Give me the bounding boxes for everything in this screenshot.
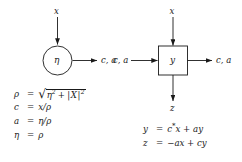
equation-eta: η = ρ (14, 130, 86, 144)
equation-a: a = η/ρ (14, 116, 86, 130)
equation-c-rhs: x/ρ (38, 102, 51, 112)
equation-rho-lhs: ρ (14, 89, 25, 99)
equation-z-lhs: z (143, 138, 154, 148)
equation-eta-equals: = (25, 130, 38, 140)
right-input-top-label: x (170, 7, 175, 16)
right-input-left-label: c, a (113, 56, 128, 65)
equation-rho: ρ = √ η2+|X|2 (14, 88, 86, 102)
left-input-top-label: x (54, 7, 59, 16)
equation-y: y = c*x + ay (143, 124, 207, 138)
equation-z-rhs: −ax + cy (167, 138, 207, 148)
figure-root: x η c, a x c, a y c, a z ρ = √ η2+|X|2 c… (0, 0, 242, 162)
equation-y-rhs-post: x + ay (176, 124, 204, 134)
left-equation-block: ρ = √ η2+|X|2 c = x/ρ a = η/ρ η = ρ (14, 88, 86, 144)
equation-rho-equals: = (25, 89, 38, 99)
equation-a-rhs: η/ρ (38, 116, 51, 126)
equation-y-rhs: c*x + ay (167, 124, 203, 134)
equation-y-lhs: y (143, 124, 154, 134)
equation-c: c = x/ρ (14, 102, 86, 116)
equation-a-lhs: a (14, 116, 25, 126)
equation-y-equals: = (154, 124, 167, 134)
left-cell-group (43, 17, 97, 75)
equation-rho-radical: √ η2+|X|2 (38, 88, 85, 100)
equation-z-equals: = (154, 138, 167, 148)
equation-z: z = −ax + cy (143, 138, 207, 152)
radicand: η2+|X|2 (46, 89, 86, 101)
right-equation-block: y = c*x + ay z = −ax + cy (143, 124, 207, 152)
equation-c-equals: = (25, 102, 38, 112)
equation-a-equals: = (25, 116, 38, 126)
radicand-X-exponent: 2 (81, 88, 85, 95)
equation-eta-lhs: η (14, 130, 25, 140)
equation-z-rhs-post: x + cy (180, 138, 207, 148)
radicand-X: X (71, 90, 77, 100)
right-output-bottom-label: z (170, 104, 174, 113)
radicand-plus: + (56, 90, 67, 100)
equation-c-lhs: c (14, 102, 25, 112)
circle-node-label: η (54, 56, 59, 65)
square-node-label: y (170, 56, 175, 65)
right-output-right-label: c, a (216, 56, 231, 65)
equation-z-rhs-pre: −a (167, 138, 179, 148)
equation-eta-rhs: ρ (38, 130, 43, 140)
